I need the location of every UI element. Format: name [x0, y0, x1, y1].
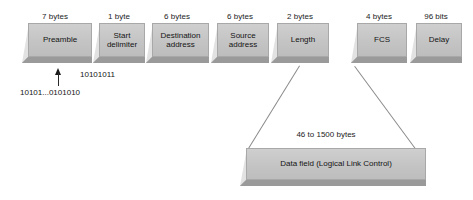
block-bottom-face: [410, 56, 462, 63]
block-front-face: Preamble: [28, 23, 92, 57]
block-bottom-face: [211, 56, 269, 63]
frame-field-label: Preamble: [41, 35, 79, 45]
frame-field-fcs: FCS: [351, 23, 407, 63]
block-bottom-face: [351, 56, 407, 63]
frame-field-start-delimiter: Startdelimiter: [93, 23, 145, 63]
frame-field-preamble: Preamble: [22, 23, 92, 63]
frame-field-label: Startdelimiter: [105, 31, 139, 50]
block-bottom-face: [22, 56, 92, 63]
size-label-data-field: 46 to 1500 bytes: [258, 130, 394, 140]
frame-field-label: Length: [289, 35, 317, 45]
frame-field-label: Data field (Logical Link Control): [278, 159, 394, 169]
size-label-start-delimiter: 1 byte: [93, 12, 145, 22]
frame-field-destination-address: Destinationaddress: [146, 23, 209, 63]
block-bottom-face: [271, 56, 329, 63]
arrow-shaft: [58, 73, 59, 86]
size-label-preamble: 7 bytes: [22, 12, 88, 22]
block-bottom-face: [240, 179, 426, 186]
block-front-face: Destinationaddress: [152, 23, 209, 57]
frame-field-label: Sourceaddress: [227, 31, 259, 50]
size-label-destination-address: 6 bytes: [146, 12, 208, 22]
block-front-face: FCS: [357, 23, 407, 57]
preamble-callout-arrow-icon: [55, 68, 62, 86]
frame-field-label: Delay: [427, 35, 451, 45]
block-front-face: Delay: [416, 23, 462, 57]
frame-field-label: Destinationaddress: [158, 31, 202, 50]
annotation-preamble-bits: 10101...0101010: [20, 88, 80, 98]
block-front-face: Sourceaddress: [217, 23, 269, 57]
frame-field-data: Data field (Logical Link Control): [240, 148, 426, 186]
frame-field-label: FCS: [372, 35, 392, 45]
ethernet-frame-diagram: 7 bytes 1 byte 6 bytes 6 bytes 2 bytes 4…: [0, 0, 473, 200]
frame-field-source-address: Sourceaddress: [211, 23, 269, 63]
frame-field-length: Length: [271, 23, 329, 63]
size-label-fcs: 4 bytes: [351, 12, 407, 22]
annotation-start-delimiter-bits: 10101011: [80, 70, 115, 80]
size-label-length: 2 bytes: [271, 12, 329, 22]
block-bottom-face: [146, 56, 209, 63]
size-label-source-address: 6 bytes: [211, 12, 269, 22]
size-label-delay: 96 bits: [410, 12, 462, 22]
block-bottom-face: [93, 56, 145, 63]
frame-field-delay: Delay: [410, 23, 462, 63]
block-front-face: Data field (Logical Link Control): [246, 148, 426, 180]
block-front-face: Length: [277, 23, 329, 57]
block-front-face: Startdelimiter: [99, 23, 145, 57]
